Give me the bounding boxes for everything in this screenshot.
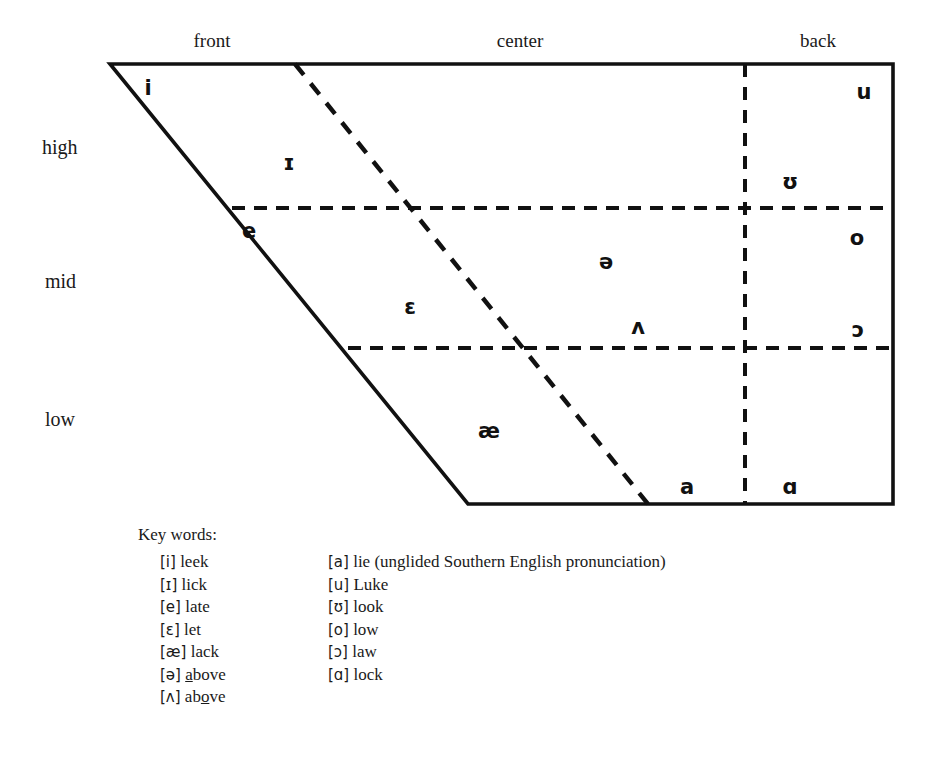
vowel-symbol-mid-front: e [242,221,256,242]
key-word-entry: [u] Luke [328,574,848,597]
key-word-entry: [e] late [160,596,340,619]
key-word-ipa: [æ] [160,643,186,661]
key-word-entry: [ɑ] lock [328,664,848,687]
key-word-entry: [æ] lack [160,641,340,664]
dashed-divider-front-center [295,64,648,504]
key-word-text: low [349,620,379,639]
key-word-text: lie (unglided Southern English pronuncia… [349,552,666,571]
key-word-text: lick [177,575,207,594]
key-word-entry: [ɪ] lick [160,574,340,597]
key-word-text: above [181,665,226,684]
key-word-entry: [a] lie (unglided Southern English pronu… [328,551,848,574]
vowel-quadrilateral-outline [110,64,893,504]
key-word-text: lock [349,665,383,684]
vowel-symbol-mid-back: o [850,228,864,249]
key-word-entry: [ə] above [160,664,340,687]
key-word-text: look [349,597,383,616]
key-word-ipa: [ɛ] [160,621,180,639]
key-word-text: Luke [349,575,388,594]
key-word-ipa: [a] [328,553,349,571]
key-word-text: lack [186,642,219,661]
key-word-ipa: [ɑ] [328,666,349,684]
key-word-ipa: [ʊ] [328,598,349,616]
vowel-symbol-mid-center: ə [599,252,613,273]
vowel-symbol-mid-front: ɛ [404,297,416,318]
key-word-entry: [ɔ] law [328,641,848,664]
vowel-symbol-low-center: a [680,477,694,498]
key-word-text: late [181,597,210,616]
key-word-ipa: [ɪ] [160,576,177,594]
vowel-symbol-low-front: æ [478,421,500,442]
key-word-entry: [o] low [328,619,848,642]
key-word-text: let [180,620,201,639]
vowel-symbol-low-back: ɑ [782,477,797,498]
key-word-ipa: [ʌ] [160,688,181,706]
vowel-symbol-mid-center: ʌ [631,317,645,338]
key-word-ipa: [ɔ] [328,643,348,661]
vowel-symbol-mid-back: ɔ [852,320,864,341]
key-words-title: Key words: [138,525,838,545]
key-word-ipa: [o] [328,621,349,639]
key-word-ipa: [e] [160,598,181,616]
key-word-entry: [ɛ] let [160,619,340,642]
key-word-ipa: [u] [328,576,349,594]
vowel-symbol-high-back: ʊ [782,172,798,193]
vowel-symbol-high-front: i [144,78,151,99]
key-words-column-right: [a] lie (unglided Southern English pronu… [328,551,848,686]
key-word-entry: [i] leek [160,551,340,574]
key-words-column-left: [i] leek[ɪ] lick[e] late[ɛ] let[æ] lack[… [160,551,340,709]
vowel-symbol-high-front: ɪ [283,153,294,174]
key-word-text: above [181,687,226,706]
key-word-ipa: [i] [160,553,176,571]
key-words-legend: Key words: [i] leek[ɪ] lick[e] late[ɛ] l… [138,525,838,551]
vowel-chart-figure: front center back high mid low iɪuʊeɛəʌo… [0,0,926,768]
key-word-text: leek [176,552,209,571]
key-word-ipa: [ə] [160,666,181,684]
key-word-entry: [ʊ] look [328,596,848,619]
key-word-entry: [ʌ] above [160,686,340,709]
vowel-symbol-high-back: u [857,82,872,103]
key-word-text: law [348,642,377,661]
